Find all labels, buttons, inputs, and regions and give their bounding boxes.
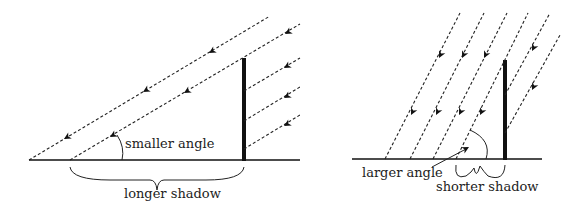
right-sun-rays <box>385 13 560 159</box>
arrow-icon <box>141 85 151 95</box>
right-ray-2 <box>410 13 484 159</box>
right-ray-4 <box>456 13 528 159</box>
left-diagram: smaller angle longer shadow <box>29 16 300 201</box>
left-ray-5 <box>244 115 300 149</box>
pointer-arrow-icon <box>461 144 470 153</box>
arrow-icon <box>459 50 468 59</box>
arrow-icon <box>182 86 192 96</box>
left-angle-label: smaller angle <box>125 136 215 151</box>
left-shadow-label: longer shadow <box>124 186 221 201</box>
right-angle-label: larger angle <box>362 165 443 180</box>
left-angle-arc <box>117 135 123 160</box>
arrow-icon <box>207 46 217 56</box>
left-ray-4 <box>244 87 300 121</box>
arrow-icon <box>108 130 118 140</box>
arrow-icon <box>62 132 72 142</box>
shadow-angle-diagram: smaller angle longer shadow <box>0 0 587 211</box>
right-angle-arc <box>470 130 487 159</box>
arrow-icon <box>481 50 490 59</box>
right-shadow-label: shorter shadow <box>436 179 538 194</box>
arrow-icon <box>477 107 486 116</box>
arrow-icon <box>282 61 292 71</box>
left-ray-3 <box>244 58 300 91</box>
right-shadow-brace <box>456 165 505 178</box>
right-ray-1 <box>385 13 460 159</box>
right-ray-3 <box>433 13 507 159</box>
right-diagram: larger angle shorter shadow <box>352 13 560 194</box>
right-ray-5 <box>505 13 550 95</box>
